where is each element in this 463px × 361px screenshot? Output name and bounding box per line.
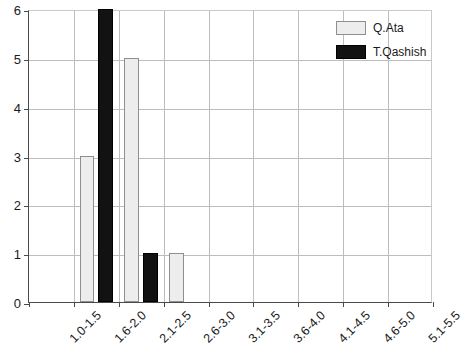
x-tick-label: 2.6-3.0	[202, 309, 238, 345]
y-axis-tick-labels: 0123456	[0, 10, 21, 303]
legend-label: Q.Ata	[373, 22, 404, 34]
bar	[98, 9, 113, 302]
y-tickmark	[24, 206, 29, 207]
legend-swatch-icon	[336, 21, 366, 35]
x-tickmark	[433, 302, 434, 307]
y-tick-label: 1	[0, 248, 21, 261]
y-tickmark	[24, 158, 29, 159]
y-tickmark	[24, 60, 29, 61]
chart-legend: Q.AtaT.Qashish	[336, 20, 432, 59]
bar	[124, 58, 139, 302]
legend-item: Q.Ata	[336, 20, 432, 35]
bar	[143, 253, 158, 302]
x-tick-label: 5.1-5.5	[426, 309, 462, 345]
legend-swatch-icon	[336, 45, 366, 59]
y-tickmark	[24, 11, 29, 12]
x-tick-label: 2.1-2.5	[157, 309, 193, 345]
x-tick-label: 1.0-1.5	[67, 309, 103, 345]
legend-item: T.Qashish	[336, 44, 432, 59]
x-tick-label: 1.6-2.0	[112, 309, 148, 345]
x-tick-label: 4.1-4.5	[337, 309, 373, 345]
bar	[169, 253, 184, 302]
y-tickmark	[24, 109, 29, 110]
x-axis-tick-labels: 1.0-1.51.6-2.02.1-2.52.6-3.03.1-3.53.6-4…	[28, 303, 432, 361]
y-tickmark	[24, 255, 29, 256]
x-tick-label: 3.1-3.5	[247, 309, 283, 345]
bar	[80, 156, 95, 303]
x-tick-label: 4.6-5.0	[381, 309, 417, 345]
legend-label: T.Qashish	[373, 46, 426, 58]
y-tick-label: 3	[0, 150, 21, 163]
y-tick-label: 4	[0, 101, 21, 114]
y-tick-label: 2	[0, 199, 21, 212]
x-tick-label: 3.6-4.0	[292, 309, 328, 345]
y-tick-label: 6	[0, 4, 21, 17]
y-tick-label: 5	[0, 52, 21, 65]
y-tick-label: 0	[0, 297, 21, 310]
